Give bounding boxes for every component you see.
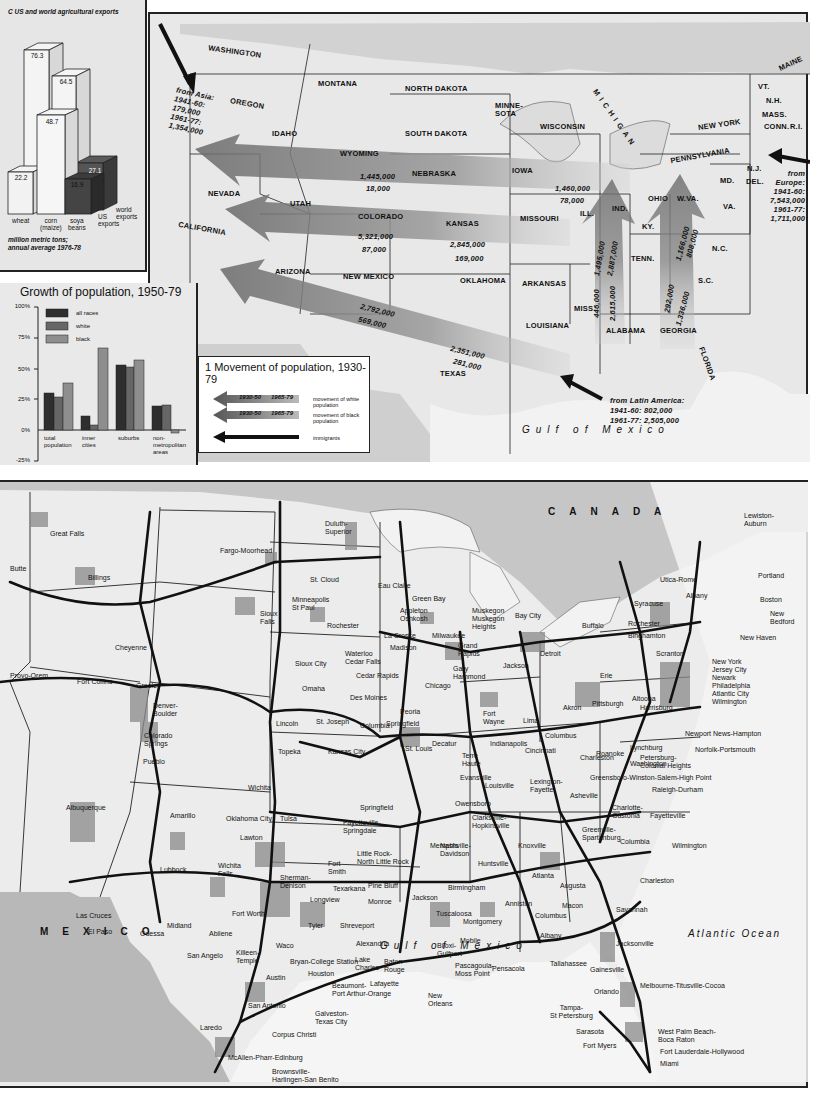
city-label: Brownsville- Harlingen-San Benito — [272, 1068, 339, 1084]
legend-period-1: 1930-50 — [239, 394, 261, 400]
city-label: Eau Claire — [378, 582, 411, 590]
category-label: wheat — [12, 217, 29, 224]
city-label: Cheyenne — [115, 644, 147, 652]
city-label: Terre Haute — [462, 752, 481, 768]
city-label: Des Moines — [350, 694, 387, 702]
city-label: Sarasota — [576, 1028, 604, 1036]
state-oklahoma: OKLAHOMA — [460, 276, 506, 285]
city-label: Fargo-Moorhead — [220, 547, 272, 555]
flow-value: 5,321,000 — [358, 232, 393, 241]
city-label: Biloxi- Gulfport — [437, 942, 462, 958]
city-label: Lubbock — [160, 866, 186, 874]
city-label: Sioux Falls — [260, 610, 278, 626]
city-label: Birmingham — [448, 884, 485, 892]
city-label: Owensboro — [455, 800, 491, 808]
city-label: Minneapolis St Paul — [292, 596, 329, 612]
state-north-dakota: NORTH DAKOTA — [405, 84, 468, 93]
city-label: Newport News-Hampton — [685, 730, 761, 738]
city-label: Tampa- St Petersburg — [550, 1004, 593, 1020]
city-label: New Bedford — [770, 610, 795, 626]
state-missouri: MISSOURI — [520, 214, 559, 223]
city-label: Lexington- Fayette — [530, 778, 563, 794]
city-label: Tuscaloosa — [436, 910, 472, 918]
city-label: Fort Myers — [583, 1042, 616, 1050]
city-label: Greensboro-Winston-Salem-High Point — [590, 774, 711, 782]
city-label: Fort Smith — [328, 860, 346, 876]
legend-white: white — [76, 323, 90, 329]
city-label: Waco — [276, 942, 294, 950]
city-label: Melbourne-Titusville-Cocoa — [640, 982, 725, 990]
state-arizona: ARIZONA — [275, 267, 311, 276]
city-label: Mobile — [460, 937, 481, 945]
city-label: Pensacola — [492, 965, 525, 973]
city-label: Killeen- Temple — [236, 949, 259, 965]
value-label: 27.1 — [80, 167, 110, 174]
city-label: Little Rock- North Little Rock — [357, 850, 409, 866]
city-label: Kansas City — [328, 748, 365, 756]
state-georgia: GEORGIA — [660, 326, 697, 335]
city-label: San Antonio — [248, 1002, 286, 1010]
city-label: Columbus — [545, 732, 577, 740]
city-label: Odessa — [140, 930, 164, 938]
city-label: Las Cruces — [76, 912, 111, 920]
city-label: Lima — [523, 717, 538, 725]
city-label: San Angelo — [187, 952, 223, 960]
city-label: Syracuse — [634, 600, 663, 608]
city-label: Evansville — [460, 774, 492, 782]
city-label: Jackson — [503, 662, 529, 670]
city-label: West Palm Beach- Boca Raton — [658, 1028, 716, 1044]
city-label: Louisville — [485, 782, 514, 790]
city-label: Rochester — [628, 620, 660, 628]
city-label: McAllen-Pharr-Edinburg — [228, 1054, 303, 1062]
metro-map: CANADA MEXICO Gulf of Mexico Atlantic Oc… — [0, 480, 808, 1088]
value-label: 48.7 — [37, 118, 67, 125]
city-label: Waterloo Cedar Falls — [345, 650, 381, 666]
city-label: Erie — [600, 672, 612, 680]
category-label: corn (maize) — [40, 217, 62, 231]
city-label: Sherman- Denison — [280, 874, 311, 890]
legend-black: movement of black population — [313, 412, 369, 424]
city-label: Lincoln — [276, 720, 298, 728]
city-label: Atlanta — [532, 872, 554, 880]
flow-value: 446,000 — [592, 289, 601, 318]
state-md: MD. — [720, 176, 734, 185]
city-label: Scranton — [656, 650, 684, 658]
city-label: Albany — [540, 932, 561, 940]
city-label: Lynchburg — [630, 744, 662, 752]
city-label: St. Louis — [405, 745, 432, 753]
city-label: Corpus Christi — [272, 1031, 316, 1039]
city-label: Denver- Boulder — [153, 702, 178, 718]
city-label: New Haven — [740, 634, 776, 642]
city-label: Chicago — [425, 682, 451, 690]
legend-period-2: 1965-79 — [271, 394, 293, 400]
flow-value: 18,000 — [366, 184, 390, 193]
population-growth-chart: Growth of population, 1950-79 100% 75% 5… — [0, 283, 198, 465]
state-ill: ILL. — [580, 209, 594, 218]
city-label: Lake Charles — [355, 956, 379, 972]
city-label: Fayetteville — [650, 812, 685, 820]
value-label: 76.3 — [22, 52, 52, 59]
city-label: Peoria — [400, 708, 420, 716]
city-label: Decatur — [432, 740, 457, 748]
value-label: 22.2 — [6, 174, 36, 181]
city-label: Midland — [167, 922, 192, 930]
city-label: Albuquerque — [66, 804, 106, 812]
state-ind: IND. — [612, 204, 628, 213]
city-label: Anniston — [505, 900, 532, 908]
city-label: Macon — [562, 902, 583, 910]
city-label: Wichita — [248, 784, 271, 792]
city-label: Austin — [266, 974, 285, 982]
city-label: Clarksville- Hopkinsville — [472, 814, 509, 830]
city-label: Charleston — [640, 877, 674, 885]
flow-value: 169,000 — [455, 254, 484, 263]
city-label: Lafayette — [370, 980, 399, 988]
city-label: Utica-Rome — [660, 576, 697, 584]
state-nh: N.H. — [766, 96, 782, 105]
legend-period-1: 1930-50 — [239, 410, 261, 416]
state-nc: N.C. — [712, 244, 728, 253]
state-minnesota: MINNE- SOTA — [495, 102, 523, 118]
city-label: Pueblo — [143, 758, 165, 766]
state-nj: N.J. — [747, 164, 762, 173]
state-alabama: ALABAMA — [606, 326, 645, 335]
city-label: Amarillo — [170, 812, 195, 820]
